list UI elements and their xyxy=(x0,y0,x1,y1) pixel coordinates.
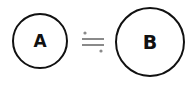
node-a-circle: A xyxy=(12,13,68,69)
node-b-circle: B xyxy=(115,7,185,77)
node-a-label: A xyxy=(33,31,46,51)
node-b-label: B xyxy=(143,31,157,53)
approximately-equal-icon xyxy=(82,30,104,54)
